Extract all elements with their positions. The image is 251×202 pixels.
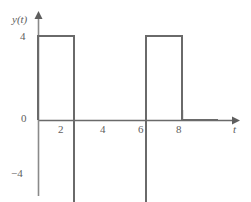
x-axis-label: t	[233, 124, 236, 135]
x-tick-label-4: 4	[100, 124, 106, 135]
y-tick-label-4: 4	[20, 31, 26, 42]
waveform-trace	[38, 36, 218, 202]
x-tick-label-8: 8	[176, 124, 182, 135]
square-wave-plot	[0, 0, 251, 202]
y-tick-label-0: 0	[21, 113, 27, 124]
x-tick-label-2: 2	[58, 124, 64, 135]
y-tick-label-minus-4: −4	[11, 168, 23, 179]
y-axis-arrow-icon	[35, 11, 43, 19]
figure-canvas: y(t) t 4 0 −4 2 4 6 8	[0, 0, 251, 202]
y-axis-label: y(t)	[12, 14, 27, 25]
x-tick-label-6: 6	[138, 124, 144, 135]
